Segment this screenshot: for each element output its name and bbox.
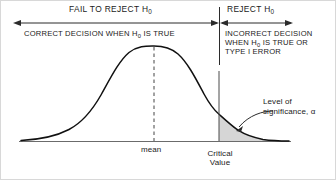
hypothesis-test-diagram: FAIL TO REJECT H0 CORRECT DECISION WHEN … — [0, 0, 336, 180]
reject-heading: REJECT H0 — [227, 5, 275, 15]
incorrect-decision-block: INCORRECT DECISION WHEN H0 IS TRUE OR TY… — [225, 30, 312, 57]
fail-to-reject-heading-text: FAIL TO REJECT H — [69, 4, 148, 14]
reject-heading-text: REJECT H — [227, 4, 271, 14]
fail-to-reject-heading: FAIL TO REJECT H0 — [69, 5, 152, 15]
incorrect-decision-line3: TYPE I ERROR — [225, 48, 312, 57]
fail-to-reject-heading-subscript: 0 — [148, 8, 152, 15]
reject-heading-subscript: 0 — [271, 8, 275, 15]
reject-span-arrow — [220, 20, 293, 26]
critical-value-label-line2: Value — [201, 158, 239, 167]
correct-decision-subtext-a: CORRECT DECISION WHEN H — [24, 29, 138, 38]
significance-annotation-line1: Level of — [263, 97, 315, 107]
correct-decision-subtext: CORRECT DECISION WHEN H0 IS TRUE — [24, 30, 175, 39]
critical-value-label: Critical Value — [201, 149, 239, 168]
normal-curve — [21, 46, 289, 141]
incorrect-decision-line2-b: IS TRUE OR — [260, 38, 308, 47]
significance-annotation: Level of significance, α — [263, 97, 315, 118]
diagram-canvas — [1, 1, 336, 180]
mean-label: mean — [141, 145, 161, 154]
critical-value-label-line1: Critical — [201, 149, 239, 158]
correct-decision-subtext-b: IS TRUE — [141, 29, 175, 38]
significance-annotation-line2: significance, α — [263, 107, 315, 117]
incorrect-decision-line2-a: WHEN H — [225, 38, 257, 47]
fail-to-reject-span-arrow — [13, 20, 219, 26]
